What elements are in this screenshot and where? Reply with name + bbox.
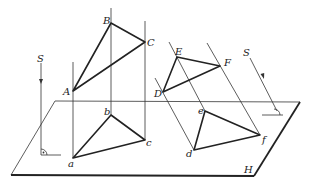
right-angle-dot-icon	[43, 152, 45, 154]
projection-diagram: H S B C A b c a E F D e f d S	[0, 0, 309, 191]
triangle-abc	[73, 23, 145, 91]
label-f: f	[261, 134, 268, 145]
projector-f	[207, 43, 260, 135]
direction-label: S	[243, 47, 250, 58]
arrow-down-icon	[261, 73, 265, 79]
label-e: e	[198, 105, 204, 116]
label-B: B	[102, 15, 110, 26]
label-C: C	[147, 37, 155, 48]
label-b: b	[104, 106, 110, 117]
label-d: d	[186, 148, 192, 159]
direction-s-right: S	[243, 47, 283, 115]
triangle-abc-projection	[73, 115, 145, 158]
direction-line	[250, 58, 277, 111]
direction-s-left: S	[37, 53, 61, 155]
triangle-def-projection	[194, 111, 260, 150]
label-E: E	[174, 46, 183, 57]
label-D: D	[153, 88, 162, 99]
plane-right-edge	[254, 102, 300, 176]
label-A: A	[62, 86, 70, 97]
label-F: F	[223, 57, 232, 68]
label-a: a	[68, 158, 74, 169]
triangle-def	[163, 57, 220, 92]
plane-left-edge	[11, 101, 55, 175]
plane-top-edge	[55, 101, 300, 102]
arrow-down-icon	[39, 79, 43, 84]
plane-h: H	[11, 101, 300, 176]
label-c: c	[146, 137, 152, 148]
angle-arc-icon	[274, 109, 280, 115]
direction-label: S	[37, 53, 44, 64]
plane-bottom-edge	[11, 175, 254, 176]
projectors-def	[155, 42, 260, 150]
plane-label: H	[243, 164, 253, 175]
